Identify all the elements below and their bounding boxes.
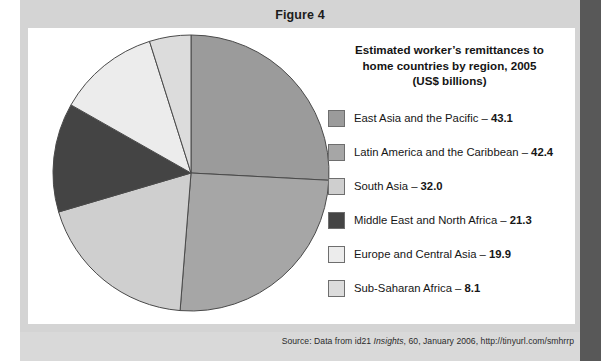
legend-label: East Asia and the Pacific – 43.1 bbox=[354, 112, 513, 124]
source-publication-name: Insights bbox=[374, 336, 404, 346]
legend-value: 42.4 bbox=[531, 146, 553, 158]
legend-item: Europe and Central Asia – 19.9 bbox=[328, 244, 573, 265]
figure-panel: Figure 4 Estimated worker’s remittances … bbox=[20, 0, 580, 332]
source-credit: Source: Data from id21 Insights, 60, Jan… bbox=[0, 336, 580, 346]
pie-slice-group bbox=[53, 35, 329, 311]
legend-item: Sub-Saharan Africa – 8.1 bbox=[328, 278, 573, 299]
legend-label: Europe and Central Asia – 19.9 bbox=[354, 248, 511, 260]
legend-swatch-icon bbox=[328, 144, 345, 161]
left-page-margin bbox=[0, 0, 20, 361]
legend-item: South Asia – 32.0 bbox=[328, 176, 573, 197]
legend-swatch-icon bbox=[328, 178, 345, 195]
legend-label: Sub-Saharan Africa – 8.1 bbox=[354, 282, 480, 294]
legend-label: South Asia – 32.0 bbox=[354, 180, 443, 192]
legend-swatch-icon bbox=[328, 212, 345, 229]
pie-slice bbox=[180, 173, 329, 311]
pie-chart bbox=[44, 34, 338, 324]
figure-card: Estimated worker’s remittances to home c… bbox=[28, 28, 575, 324]
legend-swatch-icon bbox=[328, 280, 345, 297]
right-page-edge bbox=[580, 0, 601, 361]
legend-value: 32.0 bbox=[421, 180, 443, 192]
figure-page: Figure 4 Estimated worker’s remittances … bbox=[0, 0, 601, 361]
pie-slice bbox=[191, 35, 329, 180]
legend-value: 19.9 bbox=[489, 248, 511, 260]
legend-value: 43.1 bbox=[491, 112, 513, 124]
chart-title-line-2: home countries by region, 2005 bbox=[332, 58, 567, 74]
chart-title-line-1: Estimated worker’s remittances to bbox=[332, 42, 567, 58]
legend-swatch-icon bbox=[328, 246, 345, 263]
legend-item: Latin America and the Caribbean – 42.4 bbox=[328, 142, 573, 163]
figure-title: Figure 4 bbox=[20, 0, 580, 28]
chart-title: Estimated worker’s remittances to home c… bbox=[328, 42, 573, 89]
legend-list: East Asia and the Pacific – 43.1Latin Am… bbox=[328, 108, 573, 299]
legend-block: Estimated worker’s remittances to home c… bbox=[328, 38, 573, 324]
legend-item: East Asia and the Pacific – 43.1 bbox=[328, 108, 573, 129]
legend-value: 21.3 bbox=[510, 214, 532, 226]
chart-title-line-3: (US$ billions) bbox=[332, 73, 567, 89]
legend-label: Latin America and the Caribbean – 42.4 bbox=[354, 146, 553, 158]
legend-swatch-icon bbox=[328, 110, 345, 127]
legend-label: Middle East and North Africa – 21.3 bbox=[354, 214, 532, 226]
pie-chart-svg bbox=[44, 34, 338, 324]
legend-value: 8.1 bbox=[465, 282, 481, 294]
legend-item: Middle East and North Africa – 21.3 bbox=[328, 210, 573, 231]
